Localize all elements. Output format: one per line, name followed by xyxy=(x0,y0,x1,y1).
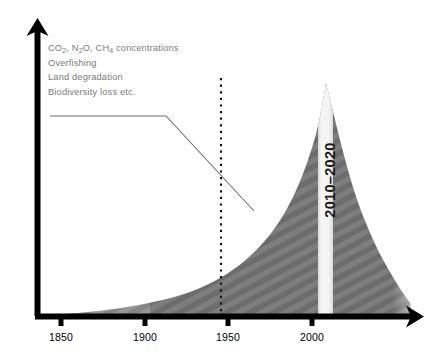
x-tick-label-2000: 2000 xyxy=(300,331,324,343)
y-axis xyxy=(27,18,49,316)
decade-band-label: 2010–2020 xyxy=(322,137,338,223)
area-fill xyxy=(0,0,443,361)
annotation-leader-line xyxy=(50,116,254,211)
x-tick-label-1950: 1950 xyxy=(216,331,240,343)
x-tick-label-1850: 1850 xyxy=(49,331,73,343)
figure-root: CO2, N2O, CH4 concentrations Overfishing… xyxy=(0,0,443,361)
x-tick-label-1900: 1900 xyxy=(133,331,157,343)
chart-canvas xyxy=(0,0,443,361)
x-axis-ticks xyxy=(59,319,315,326)
